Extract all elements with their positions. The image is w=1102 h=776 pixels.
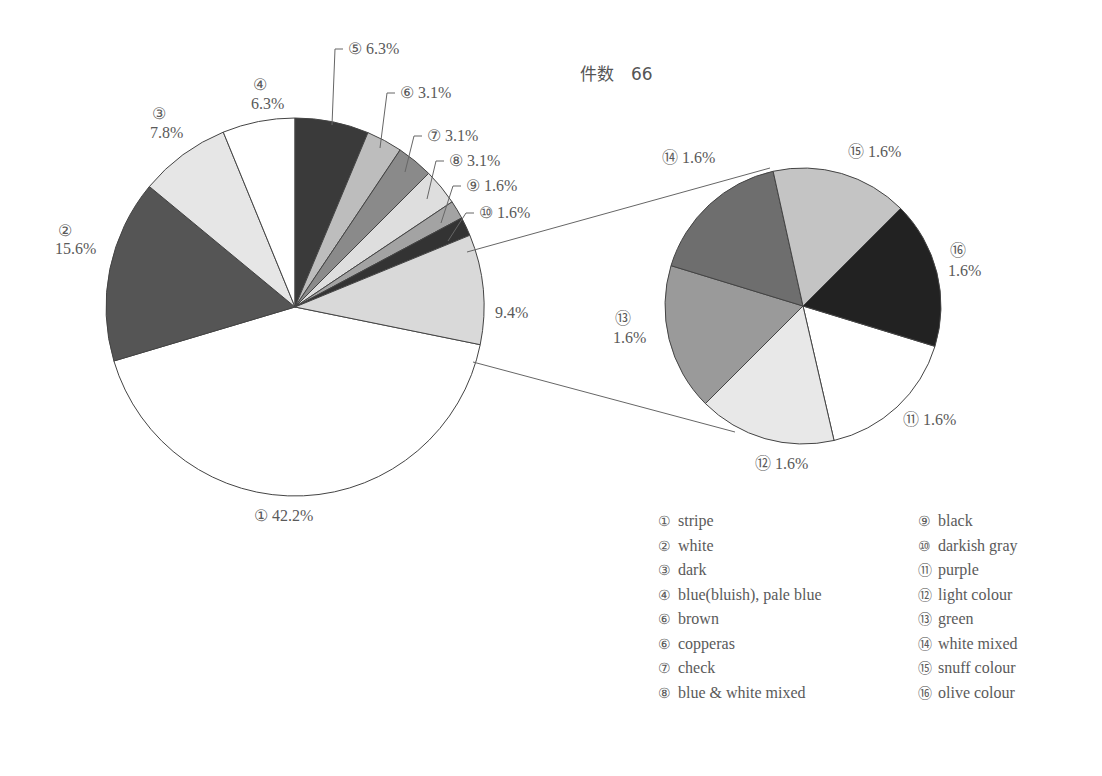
label-slice-16-number: ⑯	[950, 242, 966, 259]
legend-marker: ⑩	[918, 535, 938, 560]
legend-label: check	[678, 659, 715, 676]
label-slice-13-percent: 1.6%	[613, 329, 646, 346]
legend-marker: ⑮	[918, 657, 938, 682]
legend-item: ①stripe	[658, 509, 822, 534]
legend-label: light colour	[938, 586, 1012, 603]
legend-item: ⑩darkish gray	[918, 534, 1018, 559]
legend-item: ⑯olive colour	[918, 681, 1018, 706]
legend-item: ⑦check	[658, 656, 822, 681]
label-other-slice: 9.4%	[495, 304, 528, 321]
legend-item: ⑨black	[918, 509, 1018, 534]
legend-column-1: ①stripe ②white ③dark ④blue(bluish), pale…	[658, 509, 822, 705]
label-slice-3-percent: 7.8%	[150, 124, 183, 141]
label-slice-1: ① 42.2%	[254, 507, 313, 524]
legend-label: white	[678, 537, 714, 554]
label-slice-6: ⑥ 3.1%	[400, 84, 451, 101]
legend-label: stripe	[678, 512, 714, 529]
label-slice-11: ⑪ 1.6%	[903, 411, 956, 428]
legend-column-2: ⑨black ⑩darkish gray ⑪purple ⑫light colo…	[918, 509, 1018, 705]
label-slice-13-number: ⑬	[615, 310, 631, 327]
legend-label: purple	[938, 561, 979, 578]
legend-label: snuff colour	[938, 659, 1015, 676]
legend-item: ⑬green	[918, 607, 1018, 632]
label-slice-4-number: ④	[253, 76, 267, 93]
legend-item: ⑧blue & white mixed	[658, 681, 822, 706]
legend-marker: ⑥	[658, 608, 678, 633]
label-slice-8: ⑧ 3.1%	[449, 152, 500, 169]
legend-item: ②white	[658, 534, 822, 559]
legend-label: copperas	[678, 635, 735, 652]
label-slice-14: ⑭ 1.6%	[662, 149, 715, 166]
legend-item: ⑮snuff colour	[918, 656, 1018, 681]
legend-item: ⑥brown	[658, 607, 822, 632]
label-slice-7: ⑦ 3.1%	[427, 127, 478, 144]
legend-label: blue & white mixed	[678, 684, 806, 701]
legend-label: blue(bluish), pale blue	[678, 586, 822, 603]
legend-label: dark	[678, 561, 706, 578]
legend-marker: ②	[658, 535, 678, 560]
legend-label: darkish gray	[938, 537, 1018, 554]
legend-marker: ⑥	[658, 633, 678, 658]
label-slice-3-number: ③	[152, 105, 166, 122]
legend-label: olive colour	[938, 684, 1015, 701]
legend-label: brown	[678, 610, 719, 627]
legend-marker: ⑨	[918, 510, 938, 535]
legend-marker: ⑬	[918, 608, 938, 633]
label-slice-15: ⑮ 1.6%	[848, 143, 901, 160]
label-slice-10: ⑩ 1.6%	[479, 204, 530, 221]
legend-marker: ⑦	[658, 657, 678, 682]
legend-item: ⑭white mixed	[918, 632, 1018, 657]
legend-marker: ③	[658, 559, 678, 584]
label-slice-2-percent: 15.6%	[55, 240, 96, 257]
legend-item: ④blue(bluish), pale blue	[658, 583, 822, 608]
legend-marker: ⑧	[658, 682, 678, 707]
legend-item: ⑥copperas	[658, 632, 822, 657]
legend-item: ⑪purple	[918, 558, 1018, 583]
label-slice-9: ⑨ 1.6%	[466, 177, 517, 194]
legend-marker: ①	[658, 510, 678, 535]
legend-marker: ④	[658, 584, 678, 609]
legend-marker: ⑫	[918, 584, 938, 609]
legend-label: black	[938, 512, 973, 529]
legend-marker: ⑪	[918, 559, 938, 584]
legend-label: green	[938, 610, 974, 627]
label-slice-16-percent: 1.6%	[948, 262, 981, 279]
legend-item: ③dark	[658, 558, 822, 583]
label-slice-5: ⑤ 6.3%	[348, 40, 399, 57]
main-pie	[106, 118, 484, 496]
leader-line-5	[332, 49, 343, 125]
label-slice-2-number: ②	[58, 222, 72, 239]
label-slice-12: ⑫ 1.6%	[755, 455, 808, 472]
legend-marker: ⑭	[918, 633, 938, 658]
secondary-pie	[665, 168, 941, 444]
legend-item: ⑫light colour	[918, 583, 1018, 608]
label-slice-4-percent: 6.3%	[251, 95, 284, 112]
legend-label: white mixed	[938, 635, 1018, 652]
chart-title: 件数 66	[580, 64, 653, 84]
legend-marker: ⑯	[918, 682, 938, 707]
